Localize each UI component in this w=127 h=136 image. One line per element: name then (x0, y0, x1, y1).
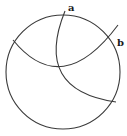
geometry-diagram: a b (0, 0, 127, 136)
arc-through-a (56, 11, 116, 102)
point-label-b: b (117, 37, 124, 48)
main-circle (6, 15, 120, 129)
point-label-a: a (68, 2, 75, 13)
